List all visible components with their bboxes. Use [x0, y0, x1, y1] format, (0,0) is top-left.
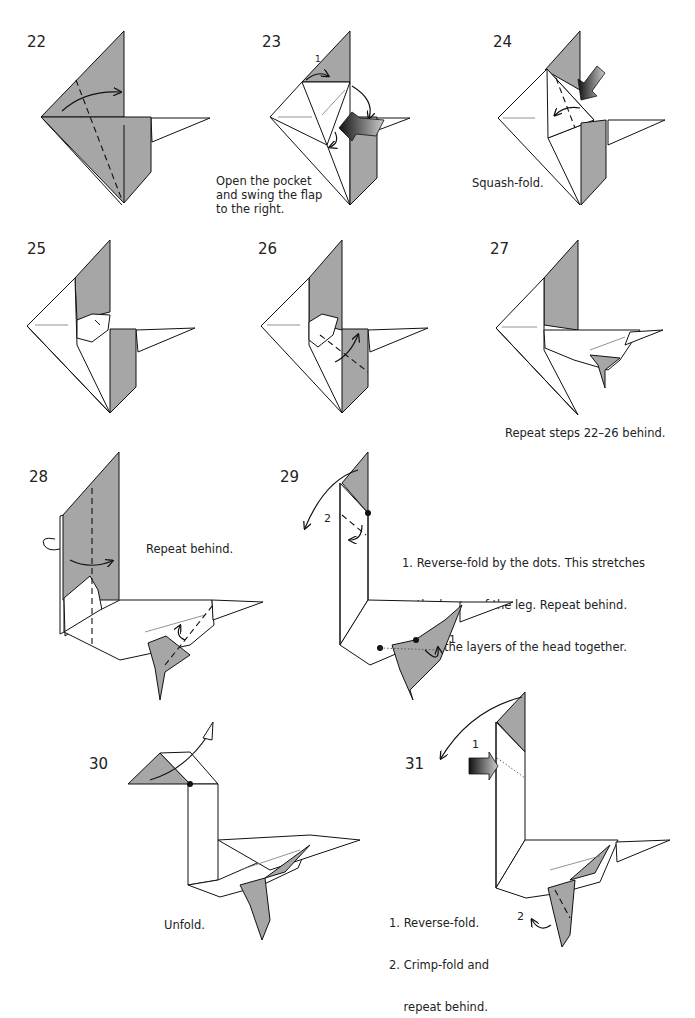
push-arrow-icon	[469, 752, 498, 780]
diagram-step-26	[261, 240, 428, 413]
caption-line: repeat behind.	[389, 1000, 489, 1014]
unfold-arrow-icon	[203, 722, 213, 740]
diagram-step-30	[128, 722, 360, 940]
diagram-step-25	[27, 240, 195, 413]
diagram-step-22	[41, 31, 210, 205]
diagram-step-27	[496, 240, 663, 415]
diagram-step-24	[498, 31, 665, 205]
push-arrow-icon	[578, 66, 605, 100]
diagram-step-29	[305, 452, 513, 700]
diagram-step-28	[43, 452, 263, 700]
diagram-step-23	[270, 31, 410, 205]
diagram-step-31	[441, 692, 670, 947]
turn-over-arrow-icon	[43, 538, 60, 550]
